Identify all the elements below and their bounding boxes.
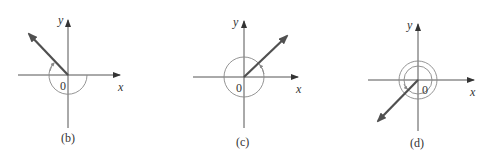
arc-arrow-icon <box>404 84 407 89</box>
panel-c: y x 0 (c) <box>193 15 302 149</box>
position-vector <box>378 80 418 121</box>
panel-d: y x 0 (d) <box>368 18 476 150</box>
panel-caption: (c) <box>236 135 249 149</box>
panel-caption: (d) <box>410 136 424 150</box>
y-axis-label: y <box>406 18 413 32</box>
x-axis-label: x <box>117 80 124 94</box>
x-axis-label: x <box>295 82 302 96</box>
position-vector <box>29 34 68 75</box>
panel-caption: (b) <box>61 131 75 145</box>
arc-arrow-icon <box>260 65 264 74</box>
origin-label: 0 <box>422 83 428 97</box>
origin-label: 0 <box>236 81 242 95</box>
panel-b: y x 0 (b) <box>18 13 124 145</box>
y-axis-label: y <box>232 15 239 29</box>
x-axis-label: x <box>469 85 476 99</box>
origin-label: 0 <box>60 79 66 93</box>
angle-figure: y x 0 (b) y x 0 (c) y x 0 (d) <box>0 0 487 160</box>
position-vector <box>244 36 287 77</box>
y-axis-label: y <box>57 13 64 27</box>
